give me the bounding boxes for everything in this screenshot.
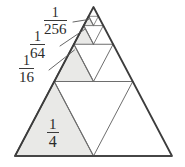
label-fraction-4: 1 4 bbox=[47, 117, 59, 150]
label-fraction-256: 1 256 bbox=[44, 6, 67, 37]
label-256-numerator: 1 bbox=[44, 6, 67, 21]
label-4-denominator: 4 bbox=[47, 133, 59, 150]
label-64-numerator: 1 bbox=[30, 30, 45, 45]
label-4-numerator: 1 bbox=[47, 117, 59, 133]
label-fraction-16: 1 16 bbox=[19, 54, 34, 85]
label-256-denominator: 256 bbox=[44, 21, 67, 37]
shaded-triangle-sixteenth bbox=[54, 44, 93, 81]
label-16-denominator: 16 bbox=[19, 69, 34, 85]
label-16-numerator: 1 bbox=[19, 54, 34, 69]
